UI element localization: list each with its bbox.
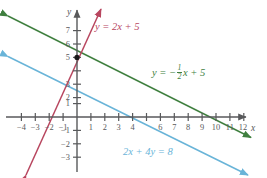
- svg-text:−1: −1: [61, 126, 70, 135]
- x-tick-labels: −4 −3 −2 −1 1 2 3 4 6 7 8 9 10 11 12: [17, 123, 247, 132]
- x-axis-label: x: [250, 123, 256, 133]
- svg-text:5: 5: [66, 53, 70, 62]
- annotation-red-equation: y = 2x + 5: [95, 22, 140, 33]
- svg-text:7: 7: [66, 26, 70, 35]
- svg-text:7: 7: [172, 123, 176, 132]
- series-green-line: [8, 16, 251, 138]
- svg-text:8: 8: [186, 123, 190, 132]
- svg-text:3: 3: [66, 80, 70, 89]
- svg-text:11: 11: [226, 123, 234, 132]
- green-eq-fraction: 12: [177, 64, 183, 81]
- svg-text:−2: −2: [61, 140, 70, 149]
- svg-text:1: 1: [89, 123, 93, 132]
- svg-text:3: 3: [117, 123, 121, 132]
- svg-text:4: 4: [131, 123, 136, 132]
- svg-text:−2: −2: [45, 123, 54, 132]
- graph-figure: −4 −3 −2 −1 1 2 3 4 6 7 8 9 10 11 12 7 6…: [0, 0, 267, 178]
- svg-text:−3: −3: [61, 153, 70, 162]
- fraction-numerator: 1: [177, 64, 183, 72]
- svg-text:6: 6: [158, 123, 162, 132]
- svg-text:−3: −3: [31, 123, 40, 132]
- series-red-line: [26, 9, 101, 175]
- green-eq-lead: y = −: [152, 67, 176, 78]
- annotation-green-equation: y = −12x + 5: [152, 64, 205, 81]
- marked-point-0-5: [74, 55, 79, 60]
- svg-text:12: 12: [239, 123, 247, 132]
- green-eq-tail: x + 5: [183, 67, 205, 78]
- svg-text:−4: −4: [17, 123, 27, 132]
- svg-text:1: 1: [66, 99, 70, 108]
- svg-text:10: 10: [212, 123, 220, 132]
- svg-text:2: 2: [103, 123, 107, 132]
- y-axis-label: y: [66, 7, 72, 17]
- fraction-denominator: 2: [177, 72, 183, 81]
- svg-text:9: 9: [200, 123, 204, 132]
- annotation-blue-equation: 2x + 4y = 8: [123, 147, 173, 158]
- svg-text:6: 6: [66, 40, 70, 49]
